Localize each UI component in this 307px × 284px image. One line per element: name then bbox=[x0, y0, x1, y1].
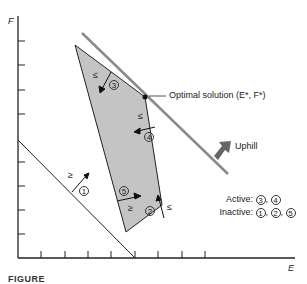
constraint-5-sign: ≥ bbox=[128, 204, 133, 213]
constraint-3-marker: 3 bbox=[109, 80, 119, 90]
uphill-label: Uphill bbox=[235, 142, 258, 151]
constraint-1-marker: 1 bbox=[79, 186, 89, 196]
constraint-2-marker: 2 bbox=[145, 206, 155, 216]
optimal-point bbox=[143, 95, 148, 100]
y-axis-label: F bbox=[8, 17, 14, 26]
constraint-5-marker: 5 bbox=[119, 186, 129, 196]
x-ticks bbox=[41, 251, 205, 258]
constraint-1-sign: ≥ bbox=[68, 171, 73, 180]
figure-caption: FIGURE bbox=[8, 274, 45, 284]
constraint-4-marker: 4 bbox=[144, 132, 154, 142]
constraint-4-sign: ≤ bbox=[138, 112, 143, 121]
uphill-arrow-icon bbox=[210, 141, 231, 160]
active-legend: Active: 3, 4 bbox=[213, 195, 281, 205]
optimal-solution-label: Optimal solution (E*, F*) bbox=[169, 91, 266, 100]
x-axis-label: E bbox=[288, 264, 294, 273]
y-ticks bbox=[18, 41, 25, 234]
constraint-3-sign: ≤ bbox=[93, 71, 98, 80]
inactive-legend: Inactive: 1, 2, 5 bbox=[205, 208, 296, 218]
constraint-2-sign: ≤ bbox=[167, 203, 172, 212]
